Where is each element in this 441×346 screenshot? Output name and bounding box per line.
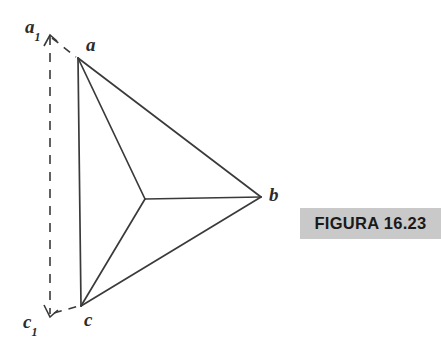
spoke-center-b (145, 197, 261, 199)
construction-lines-group (50, 36, 79, 314)
edge-b-c (81, 197, 261, 306)
edge-a-b (78, 58, 261, 197)
spoke-center-c (81, 199, 145, 306)
figure-container: a1 a b c c1 FIGURA 16.23 (0, 0, 441, 346)
vertex-label-b-base: b (269, 184, 279, 205)
arrow-down-c1-icon (44, 305, 58, 317)
vertex-label-c-base: c (84, 309, 92, 330)
technical-drawing-svg (0, 0, 441, 346)
vertex-label-a-base: a (86, 34, 96, 55)
edge-a-c (78, 58, 81, 306)
figure-caption-text: FIGURA 16.23 (314, 214, 426, 233)
center-spokes-group (78, 58, 261, 306)
spoke-center-a (78, 58, 145, 199)
vertex-label-a1-base: a (25, 16, 35, 37)
dashed-line-c1-to-c (54, 306, 79, 313)
arrow-markers-group (44, 35, 58, 317)
figure-caption-badge: FIGURA 16.23 (300, 208, 441, 239)
vertex-label-a1-sub: 1 (35, 30, 41, 44)
vertex-label-c1: c1 (23, 312, 37, 335)
vertex-label-b: b (269, 185, 279, 204)
outer-triangle-group (78, 58, 261, 306)
vertex-label-a: a (86, 35, 96, 54)
vertex-label-c: c (84, 310, 92, 329)
vertex-label-c1-sub: 1 (31, 325, 37, 339)
vertex-label-a1: a1 (25, 17, 41, 40)
